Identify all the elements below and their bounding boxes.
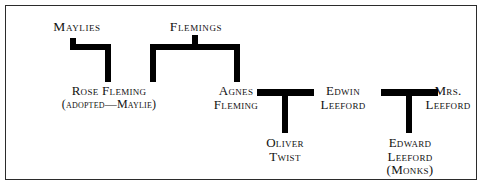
person-edward-leeford-monks-line-3: (Monks): [366, 163, 454, 177]
person-edward-leeford-monks-line-1: Edward: [366, 136, 454, 150]
person-rose-fleming-line-1: Rose Fleming: [28, 84, 190, 98]
group-label-maylies-line-1: Maylies: [37, 20, 117, 34]
group-label-flemings: Flemings: [151, 20, 241, 34]
connector-oliver-drop: [282, 89, 288, 133]
person-oliver-twist-line-1: Oliver: [245, 136, 325, 150]
group-label-maylies: Maylies: [37, 20, 117, 34]
person-mrs-leeford-line-2: Leeford: [412, 98, 484, 112]
connector-flemings-left-drop: [150, 44, 156, 82]
person-oliver-twist-line-2: Twist: [245, 150, 325, 164]
person-edward-leeford-monks-line-2: Leeford: [366, 150, 454, 164]
person-oliver-twist: Oliver Twist: [245, 136, 325, 163]
connector-edward-drop: [406, 89, 412, 133]
group-label-flemings-line-1: Flemings: [151, 20, 241, 34]
person-edwin-leeford-line-2: Leeford: [301, 98, 385, 112]
diagram-frame: Maylies Flemings Rose Fleming (adopted—M…: [5, 5, 477, 180]
connector-flemings-right-drop: [234, 44, 240, 82]
genealogy-diagram: Maylies Flemings Rose Fleming (adopted—M…: [0, 0, 484, 195]
person-rose-fleming-line-2: (adopted—Maylie): [28, 98, 190, 112]
person-rose-fleming: Rose Fleming (adopted—Maylie): [28, 84, 190, 111]
person-edward-leeford-monks: Edward Leeford (Monks): [366, 136, 454, 177]
connector-maylies-right-drop: [105, 44, 111, 82]
connector-flemings-horizontal: [150, 44, 240, 50]
person-agnes-fleming-line-2: Fleming: [186, 98, 286, 112]
